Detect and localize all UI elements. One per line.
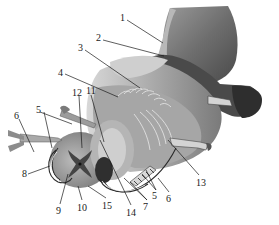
label-2: 2 xyxy=(96,33,101,43)
spinal-cord-illustration xyxy=(0,0,279,225)
label-12: 12 xyxy=(72,88,82,98)
label-9: 9 xyxy=(56,206,61,216)
label-14: 14 xyxy=(126,208,136,218)
anatomy-figure: 1 2 3 4 12 11 5 6 8 9 10 15 14 7 5 6 13 xyxy=(0,0,279,225)
label-13: 13 xyxy=(196,178,206,188)
central-canal xyxy=(78,162,81,165)
label-10: 10 xyxy=(77,203,87,213)
label-15: 15 xyxy=(102,201,112,211)
label-1: 1 xyxy=(120,13,125,23)
label-4: 4 xyxy=(58,68,63,78)
label-11: 11 xyxy=(86,86,96,96)
label-3: 3 xyxy=(78,43,83,53)
label-5-left: 5 xyxy=(36,105,41,115)
label-7: 7 xyxy=(143,202,148,212)
label-6-left: 6 xyxy=(14,111,19,121)
label-8: 8 xyxy=(22,169,27,179)
label-5-right: 5 xyxy=(152,191,157,201)
label-6-right: 6 xyxy=(166,194,171,204)
